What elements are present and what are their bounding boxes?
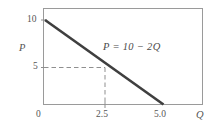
x-axis-tick-label-2-5: 2.5 — [96, 110, 108, 120]
demand-curve-figure: 10 5 0 2.5 5.0 P Q P = 10 − 2Q — [0, 0, 217, 131]
equation-annotation: P = 10 − 2Q — [103, 42, 161, 53]
y-axis-tick-label-5: 5 — [33, 62, 38, 72]
x-axis-tick-label-5-0: 5.0 — [154, 110, 166, 120]
x-axis-title: Q — [196, 110, 204, 121]
y-axis-title: P — [19, 43, 25, 54]
origin-tick-label-0: 0 — [36, 110, 41, 120]
y-axis-tick-label-10: 10 — [27, 15, 37, 25]
demand-curve-line — [45, 20, 164, 105]
